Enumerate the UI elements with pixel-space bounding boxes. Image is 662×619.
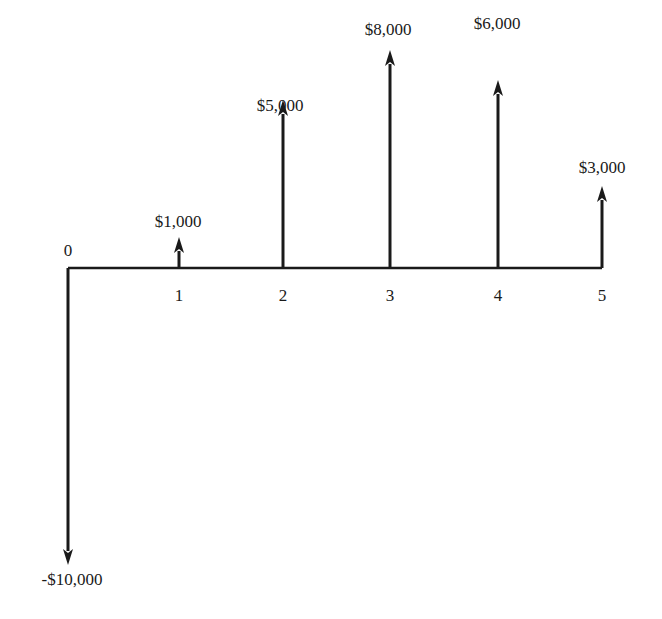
arrow-up-icon	[385, 50, 395, 66]
period-label-3: 3	[386, 286, 395, 306]
cash-flow-diagram	[0, 0, 662, 619]
period-label-4: 4	[494, 286, 503, 306]
cash-flow-label-4: $6,000	[474, 14, 521, 34]
cash-flow-label-3: $8,000	[365, 20, 412, 40]
cash-flow-label-0: -$10,000	[42, 570, 103, 590]
period-label-5: 5	[598, 286, 607, 306]
cash-flow-arrow-5	[597, 186, 607, 268]
cash-flow-arrow-0	[63, 268, 73, 565]
cash-flow-arrows	[63, 50, 607, 565]
cash-flow-arrow-1	[174, 237, 184, 268]
cash-flow-label-1: $1,000	[155, 212, 202, 232]
cash-flow-label-2: $5,000	[257, 96, 304, 116]
cash-flow-arrow-4	[493, 80, 503, 268]
cash-flow-arrow-2	[278, 100, 288, 268]
period-label-2: 2	[279, 286, 288, 306]
arrow-down-icon	[63, 549, 73, 565]
arrow-up-icon	[174, 237, 184, 253]
cash-flow-arrow-3	[385, 50, 395, 268]
arrow-up-icon	[493, 80, 503, 96]
cash-flow-label-5: $3,000	[579, 158, 626, 178]
period-label-1: 1	[175, 286, 184, 306]
period-label-0: 0	[64, 241, 73, 261]
arrow-up-icon	[597, 186, 607, 202]
